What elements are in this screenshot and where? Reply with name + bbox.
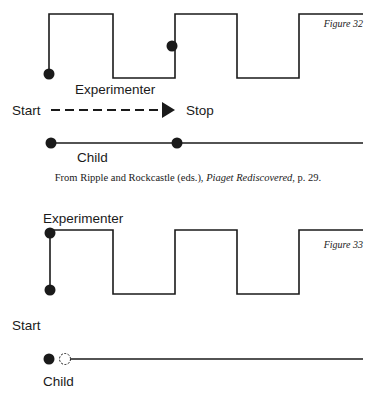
figure-32-label: Figure 32 xyxy=(323,18,363,29)
child-label: Child xyxy=(77,150,108,165)
figure-33-label: Figure 33 xyxy=(323,239,363,250)
arrow-head-icon xyxy=(162,102,175,118)
experimenter-label: Experimenter xyxy=(43,211,124,226)
child-dashed-dot xyxy=(60,354,71,365)
figure-33: Experimenter Figure 33 Start Child xyxy=(12,211,363,389)
child-label: Child xyxy=(43,374,74,389)
caption-suffix: , p. 29. xyxy=(292,172,321,183)
diagram-canvas: Figure 32 Experimenter Start Stop Child … xyxy=(0,0,376,401)
stop-label: Stop xyxy=(186,103,214,118)
start-label: Start xyxy=(12,318,41,333)
caption-title: Piaget Rediscovered xyxy=(205,172,293,183)
child-filled-dot xyxy=(44,354,55,365)
experimenter-start-dot xyxy=(44,69,55,80)
caption-prefix: From Ripple and Rockcastle (eds.), xyxy=(55,172,206,184)
figure-32: Figure 32 Experimenter Start Stop Child xyxy=(12,14,363,165)
experimenter-top-dot xyxy=(45,228,56,239)
experimenter-stop-dot xyxy=(167,41,178,52)
experimenter-label: Experimenter xyxy=(75,82,156,97)
child-stop-dot xyxy=(172,138,183,149)
start-label: Start xyxy=(12,103,41,118)
figure-caption: From Ripple and Rockcastle (eds.), Piage… xyxy=(55,172,321,184)
experimenter-wave-path xyxy=(49,14,363,78)
experimenter-wave-path xyxy=(49,230,363,294)
child-start-dot xyxy=(46,138,57,149)
experimenter-bottom-dot xyxy=(45,285,56,296)
